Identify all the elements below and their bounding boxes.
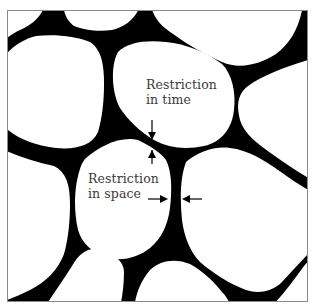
cell-left-upper <box>0 35 104 148</box>
label-restriction-in-space-line2: in space <box>88 186 159 201</box>
label-restriction-in-time-line1: Restriction <box>146 77 217 92</box>
cell-network-diagram <box>0 0 312 308</box>
label-restriction-in-time-line2: in time <box>146 92 217 107</box>
label-restriction-in-space: Restriction in space <box>88 171 159 201</box>
label-restriction-in-space-line1: Restriction <box>88 171 159 186</box>
label-restriction-in-time: Restriction in time <box>146 77 217 107</box>
